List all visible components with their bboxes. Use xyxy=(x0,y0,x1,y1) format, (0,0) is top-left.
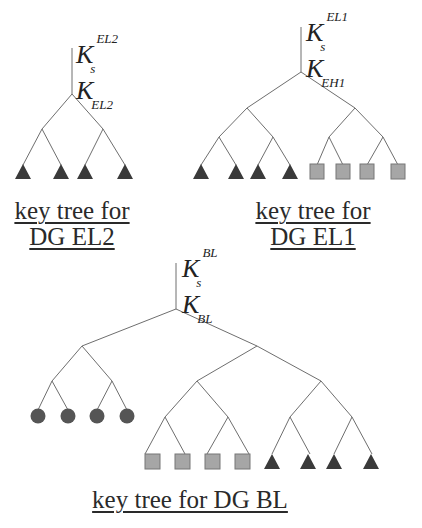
triangle-leaf-icon xyxy=(77,164,93,179)
triangle-leaf-icon xyxy=(15,164,31,179)
group-key-bl: KBL xyxy=(182,292,215,319)
caption-el1-line2: DG EL1 xyxy=(270,224,355,250)
circle-leaf-icon xyxy=(120,409,135,424)
triangle-leaf-icon xyxy=(300,454,316,469)
square-leaf-icon xyxy=(391,164,405,179)
tree-el1-edges xyxy=(201,27,398,165)
tree-el2-leaves xyxy=(15,164,133,179)
triangle-leaf-icon xyxy=(264,454,280,469)
triangle-leaf-icon xyxy=(193,164,209,179)
square-leaf-icon xyxy=(205,454,220,469)
caption-bl: key tree for DG BL xyxy=(92,487,288,513)
group-key-el1: KEH1 xyxy=(306,56,347,83)
triangle-leaf-icon xyxy=(363,454,379,469)
triangle-leaf-icon xyxy=(326,454,342,469)
square-leaf-icon xyxy=(360,164,374,179)
square-leaf-icon xyxy=(336,164,350,179)
session-key-el1: KsEL1 xyxy=(306,20,350,47)
session-key-el2: KsEL2 xyxy=(76,42,120,69)
square-leaf-icon xyxy=(145,454,160,469)
triangle-leaf-icon xyxy=(117,164,133,179)
circle-leaf-icon xyxy=(61,409,76,424)
circle-leaf-icon xyxy=(90,409,105,424)
session-key-bl: KsBL xyxy=(182,256,220,283)
triangle-leaf-icon xyxy=(282,164,298,179)
group-key-el2: KEL2 xyxy=(76,78,115,105)
square-leaf-icon xyxy=(235,454,250,469)
square-leaf-icon xyxy=(310,164,324,179)
triangle-leaf-icon xyxy=(250,164,266,179)
tree-el1-leaves xyxy=(193,164,405,179)
caption-el2-line2: DG EL2 xyxy=(29,224,114,250)
caption-el2-line1: key tree for xyxy=(14,198,129,224)
triangle-leaf-icon xyxy=(53,164,69,179)
tree-bl-leaves xyxy=(31,409,380,470)
caption-el1-line1: key tree for xyxy=(255,198,370,224)
triangle-leaf-icon xyxy=(228,164,244,179)
square-leaf-icon xyxy=(175,454,190,469)
circle-leaf-icon xyxy=(31,409,46,424)
